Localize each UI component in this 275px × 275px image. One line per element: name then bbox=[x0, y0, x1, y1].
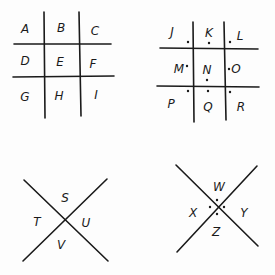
letter-y: Y bbox=[240, 206, 249, 220]
letter-j: J bbox=[168, 25, 174, 39]
letter-d: D bbox=[20, 54, 29, 68]
letter-m: M bbox=[174, 62, 185, 76]
letter-s: S bbox=[61, 191, 69, 205]
letter-z: Z bbox=[211, 225, 221, 239]
cipher-dots bbox=[209, 199, 225, 215]
x-plain: S T U V bbox=[23, 179, 108, 261]
letter-a: A bbox=[20, 22, 29, 36]
letter-o: O bbox=[231, 62, 240, 76]
letter-e: E bbox=[56, 55, 64, 69]
letter-p: P bbox=[167, 97, 175, 111]
x-dotted: W X Y Z bbox=[176, 165, 258, 252]
letter-u: U bbox=[82, 216, 91, 230]
letter-x: X bbox=[188, 206, 198, 220]
letter-q: Q bbox=[203, 100, 212, 114]
grid-dotted: J K L M N O P Q R bbox=[157, 22, 259, 122]
diagram-svg: A B C D E F G H I J K L M N O P Q R bbox=[0, 0, 275, 275]
grid-plain: A B C D E F G H I bbox=[13, 12, 114, 118]
pigpen-cipher-diagram: A B C D E F G H I J K L M N O P Q R bbox=[0, 0, 275, 275]
letter-t: T bbox=[33, 215, 42, 229]
letter-g: G bbox=[20, 90, 29, 104]
letter-l: L bbox=[237, 29, 244, 43]
letter-v: V bbox=[57, 238, 66, 252]
letter-w: W bbox=[213, 180, 226, 194]
letter-c: C bbox=[91, 24, 100, 38]
letter-b: B bbox=[57, 21, 65, 35]
letter-h: H bbox=[54, 89, 63, 103]
letter-i: I bbox=[94, 88, 98, 102]
letter-f: F bbox=[90, 57, 98, 71]
letter-r: R bbox=[237, 100, 245, 114]
letter-k: K bbox=[205, 26, 214, 40]
letter-n: N bbox=[203, 63, 212, 77]
